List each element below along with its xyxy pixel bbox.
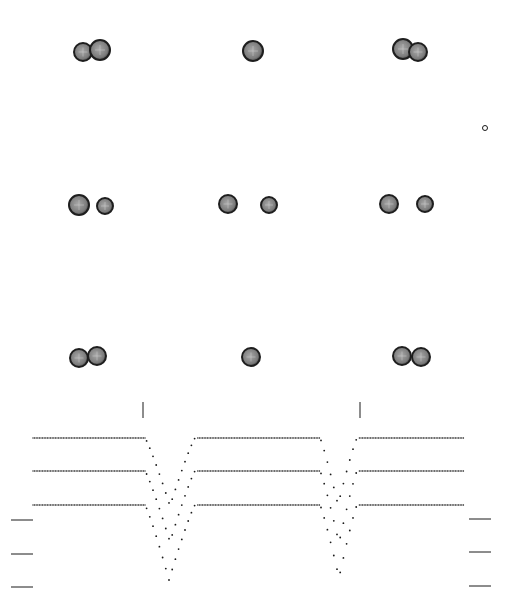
binary-panel-2-0 — [70, 347, 106, 367]
open-circle-icon — [483, 126, 488, 131]
binary-panel-0-1 — [243, 41, 263, 61]
binary-panel-2-1 — [242, 348, 260, 366]
binary-panel-0-2 — [393, 39, 427, 61]
phase-tick-marks — [143, 402, 360, 418]
binary-panel-1-1 — [219, 195, 277, 213]
binary-configuration-panels — [69, 39, 433, 367]
open-circle-marker — [483, 126, 488, 131]
binary-panel-1-0 — [69, 195, 113, 215]
light-curve-3 — [32, 504, 464, 581]
eclipsing-binary-figure — [0, 0, 513, 608]
binary-panel-0-0 — [74, 40, 110, 61]
binary-panel-1-2 — [380, 195, 433, 213]
binary-panel-2-2 — [393, 347, 430, 366]
flux-reference-bars — [11, 519, 491, 587]
light-curves — [32, 437, 464, 581]
